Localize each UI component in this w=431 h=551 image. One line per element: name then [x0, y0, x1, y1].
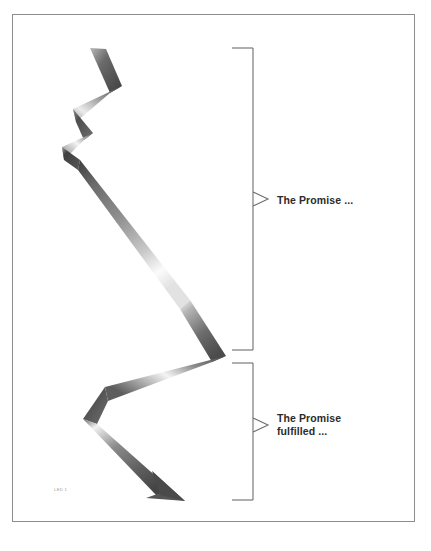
figure-caption: LED 1 — [54, 487, 67, 492]
ribbon-arrow — [62, 48, 226, 501]
ribbon-segment-8 — [83, 387, 108, 424]
ribbon-segment-7 — [105, 356, 226, 401]
ribbon-segment-2 — [73, 86, 122, 122]
bracket-promise — [232, 48, 268, 350]
diagram-canvas — [0, 0, 431, 551]
annotation-label-promise: The Promise ... — [277, 194, 353, 207]
annotation-label-promise-fulfilled: The Promise fulfilled ... — [277, 412, 341, 438]
ribbon-segment-6 — [180, 300, 226, 362]
bracket-promise-fulfilled — [232, 363, 268, 500]
ribbon-segment-9 — [83, 419, 168, 496]
ribbon-segment-main — [78, 160, 190, 309]
ribbon-segment-1 — [90, 48, 122, 93]
figure-page: The Promise ... The Promise fulfilled ..… — [0, 0, 431, 551]
